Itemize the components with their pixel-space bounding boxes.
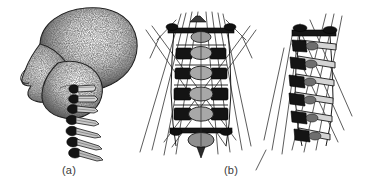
panel-b-caption: (b) [224,164,238,176]
vertebra-c2 [69,95,98,104]
panel-b-oblique-spine-view [256,14,352,170]
muscle-vector-lines-oblique [256,14,352,170]
figure-container: (a) (b) [0,0,372,187]
figure-illustration [0,0,372,187]
panel-b-anterior-spine-view [140,12,256,158]
panel-a-head-profile [21,8,137,161]
vertebra-c6 [67,137,102,150]
vertebra-c5 [66,126,101,138]
panel-a-caption: (a) [62,164,76,176]
